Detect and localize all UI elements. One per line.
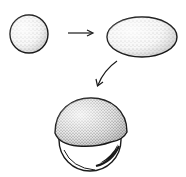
ellipsoid-shape [107,17,177,57]
arrow-right-icon [68,30,93,36]
sphere-shape [10,15,48,53]
dome-shape [55,98,127,146]
diagram-canvas [0,0,186,177]
arrow-down-left-icon [96,61,117,86]
